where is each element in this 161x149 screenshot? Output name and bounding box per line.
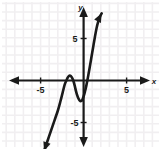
y-tick-label-negative-5: -5 (70, 118, 78, 128)
x-tick-label-negative-5: -5 (37, 85, 45, 95)
y-axis-label: y (77, 3, 83, 12)
x-tick-label-positive-5: 5 (124, 85, 129, 95)
x-axis-label: x (151, 77, 157, 86)
graph-figure: -5 5 5 -5 x y (0, 0, 161, 149)
y-tick-label-positive-5: 5 (72, 34, 77, 44)
coordinate-plane: -5 5 5 -5 x y (0, 0, 161, 149)
